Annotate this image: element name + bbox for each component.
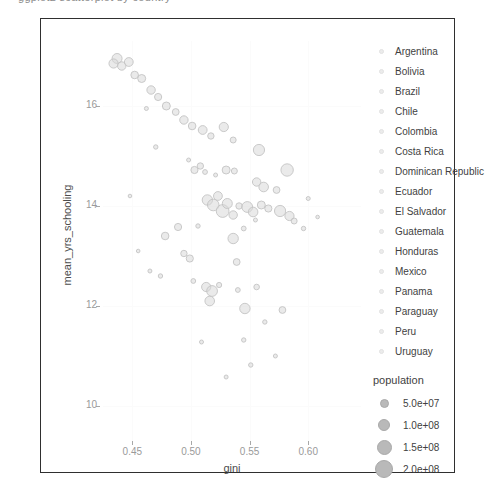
- y-axis-tick-labels: 10121416: [63, 41, 97, 441]
- legend-item-country[interactable]: Panama: [371, 281, 489, 301]
- legend-color-key-icon: [371, 349, 391, 354]
- legend-dot-icon: [379, 89, 384, 94]
- legend-item-label: 2.0e+08: [397, 464, 439, 475]
- legend-item-label: 5.0e+07: [397, 398, 439, 409]
- scatter-point: [263, 320, 267, 324]
- scatter-point: [186, 255, 193, 262]
- scatter-point: [230, 137, 236, 143]
- scatter-point: [158, 274, 162, 278]
- scatter-point: [188, 122, 196, 130]
- legend-dot-icon: [379, 129, 384, 134]
- legend-item-label: Peru: [391, 326, 416, 337]
- legend-country: ArgentinaBoliviaBrazilChileColombiaCosta…: [371, 41, 489, 361]
- scatter-point: [301, 226, 305, 230]
- scatter-point: [191, 279, 196, 284]
- scatter-point: [273, 354, 277, 358]
- x-tick-mark: [132, 441, 133, 445]
- scatter-point: [235, 288, 240, 293]
- legend-color-key-icon: [371, 269, 391, 274]
- legend-item-label: Uruguay: [391, 346, 433, 357]
- legend-item-country[interactable]: Colombia: [371, 121, 489, 141]
- scatter-point: [241, 226, 246, 231]
- legend-color-key-icon: [371, 329, 391, 334]
- scatter-point: [214, 173, 218, 177]
- legend-color-key-icon: [371, 129, 391, 134]
- scatter-point: [257, 201, 265, 209]
- scatter-point: [181, 250, 187, 256]
- scatter-point: [253, 218, 257, 222]
- legend-item-country[interactable]: Chile: [371, 101, 489, 121]
- legend-item-country[interactable]: Argentina: [371, 41, 489, 61]
- scatter-point: [229, 211, 237, 219]
- scatter-point: [214, 192, 223, 201]
- x-tick-mark: [191, 441, 192, 445]
- legend-item-country[interactable]: Bolivia: [371, 61, 489, 81]
- legend-item-population[interactable]: 5.0e+07: [371, 392, 489, 414]
- x-axis-title: gini: [103, 462, 361, 474]
- legend-item-label: Guatemala: [391, 226, 444, 237]
- legend-dot-icon: [379, 49, 384, 54]
- scatter-point: [316, 215, 320, 219]
- scatter-point: [233, 259, 240, 266]
- legend-item-label: Mexico: [391, 266, 427, 277]
- legend-item-country[interactable]: Brazil: [371, 81, 489, 101]
- legend-item-country[interactable]: Peru: [371, 321, 489, 341]
- legend-dot-icon: [379, 329, 384, 334]
- scatter-point: [231, 168, 237, 174]
- legend-item-country[interactable]: Mexico: [371, 261, 489, 281]
- legend-item-population[interactable]: 2.0e+08: [371, 458, 489, 480]
- legend-item-country[interactable]: Dominican Republic: [371, 161, 489, 181]
- legend-dot-icon: [379, 229, 384, 234]
- legend-item-population[interactable]: 1.0e+08: [371, 414, 489, 436]
- scatter-point: [222, 166, 230, 174]
- legend-item-label: Brazil: [391, 86, 420, 97]
- legend-color-key-icon: [371, 169, 391, 174]
- legend-item-label: Panama: [391, 286, 432, 297]
- x-tick-label: 0.55: [240, 446, 259, 457]
- scatter-point: [191, 166, 198, 173]
- legend-item-country[interactable]: Costa Rica: [371, 141, 489, 161]
- legend-size-key-icon: [371, 419, 397, 431]
- scatter-point: [242, 338, 246, 342]
- scatter-point: [208, 133, 214, 139]
- scatter-point: [265, 205, 272, 212]
- legend-color-key-icon: [371, 49, 391, 54]
- scatter-point: [128, 194, 132, 198]
- legend-item-label: Dominican Republic: [391, 166, 484, 177]
- legend-item-label: Bolivia: [391, 66, 424, 77]
- scatter-point: [273, 187, 280, 194]
- legend-item-label: Chile: [391, 106, 418, 117]
- legend-item-label: 1.5e+08: [397, 442, 439, 453]
- scatter-point: [219, 122, 228, 131]
- scatter-point: [131, 71, 139, 79]
- scatter-point: [161, 232, 169, 240]
- figure-frame: mean_yrs_schooling 10121416 0.450.500.55…: [40, 18, 455, 473]
- scatter-point: [148, 269, 152, 273]
- legend-dot-icon: [379, 269, 384, 274]
- scatter-point: [281, 164, 293, 176]
- scatter-point: [259, 182, 269, 192]
- legend-dot-icon: [379, 189, 384, 194]
- clipped-header-text: ggplot2 scatterplot by country: [18, 0, 171, 3]
- scatter-point: [172, 109, 179, 116]
- legend-item-label: Argentina: [391, 46, 438, 57]
- legend-dot-icon: [379, 149, 384, 154]
- legend-item-country[interactable]: Guatemala: [371, 221, 489, 241]
- x-tick-label: 0.50: [181, 446, 200, 457]
- legend-item-label: El Salvador: [391, 206, 446, 217]
- x-axis-tick-labels: 0.450.500.550.60: [103, 446, 361, 462]
- legend-item-country[interactable]: El Salvador: [371, 201, 489, 221]
- legend-item-country[interactable]: Paraguay: [371, 301, 489, 321]
- scatter-point: [274, 205, 285, 216]
- legend-item-country[interactable]: Uruguay: [371, 341, 489, 361]
- legend-item-population[interactable]: 1.5e+08: [371, 436, 489, 458]
- legend-dot-icon: [379, 109, 384, 114]
- x-tick-mark: [308, 441, 309, 445]
- x-tick-mark: [250, 441, 251, 445]
- legend-item-country[interactable]: Honduras: [371, 241, 489, 261]
- legend-item-label: Paraguay: [391, 306, 438, 317]
- scatter-point: [174, 223, 181, 230]
- scatter-point: [187, 158, 191, 162]
- legend-item-country[interactable]: Ecuador: [371, 181, 489, 201]
- legend-color-key-icon: [371, 189, 391, 194]
